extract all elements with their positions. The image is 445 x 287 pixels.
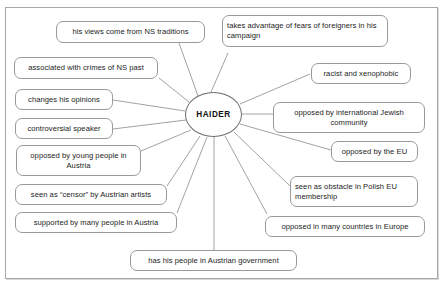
node-censor-artists[interactable]: seen as “censor” by Austrian artists (15, 184, 167, 205)
edge-to-young-people (141, 130, 191, 151)
node-changes-opinions[interactable]: changes his opinions (15, 89, 113, 110)
edge-to-changes-opinions (113, 100, 185, 111)
edge-to-crimes-ns-past (159, 78, 189, 102)
node-label: his views come from NS traditions (72, 27, 188, 37)
edge-to-fears-foreigners (211, 53, 228, 92)
center-node-haider[interactable]: HAIDER (185, 92, 242, 137)
edge-to-opposed-europe (225, 136, 267, 214)
node-controversial-speaker[interactable]: controversial speaker (15, 118, 113, 139)
node-label: racist and xenophobic (324, 69, 399, 79)
node-label: has his people in Austrian government (148, 256, 279, 266)
node-label: controversial speaker (27, 124, 100, 134)
node-label: opposed by the EU (342, 147, 407, 157)
node-label: supported by many people in Austria (34, 218, 159, 228)
node-young-people[interactable]: opposed by young people in Austria (16, 145, 141, 176)
node-ns-traditions[interactable]: his views come from NS traditions (56, 21, 205, 43)
node-crimes-ns-past[interactable]: associated with crimes of NS past (14, 57, 158, 79)
node-label: opposed by young people in Austria (21, 151, 136, 170)
node-supported-austria[interactable]: supported by many people in Austria (15, 212, 177, 233)
edge-to-controversial (113, 120, 186, 129)
edge-to-polish-eu (234, 132, 290, 186)
node-label: changes his opinions (28, 95, 100, 105)
node-jewish-community[interactable]: opposed by international Jewish communit… (273, 102, 425, 133)
node-label: takes advantage of fears of foreigners i… (227, 21, 383, 40)
node-fears-foreigners[interactable]: takes advantage of fears of foreigners i… (222, 15, 388, 47)
node-label: opposed in many countries in Europe (281, 222, 408, 232)
node-opposed-eu[interactable]: opposed by the EU (331, 141, 418, 162)
node-polish-eu[interactable]: seen as obstacle in Polish EU membership (290, 176, 418, 207)
edge-to-racist-xenophobic (240, 74, 310, 104)
node-label: seen as “censor” by Austrian artists (31, 190, 151, 200)
center-node-label: HAIDER (196, 110, 230, 119)
node-label: seen as obstacle in Polish EU membership (295, 182, 413, 201)
node-austrian-government[interactable]: has his people in Austrian government (130, 250, 297, 271)
node-racist-xenophobic[interactable]: racist and xenophobic (311, 63, 411, 84)
edge-to-censor-artists (167, 136, 200, 186)
node-opposed-europe[interactable]: opposed in many countries in Europe (265, 216, 425, 237)
diagram-canvas: HAIDER his views come from NS traditions… (0, 0, 445, 287)
edge-to-ns-traditions (179, 43, 198, 96)
node-label: associated with crimes of NS past (28, 63, 144, 73)
node-label: opposed by international Jewish communit… (278, 108, 420, 127)
